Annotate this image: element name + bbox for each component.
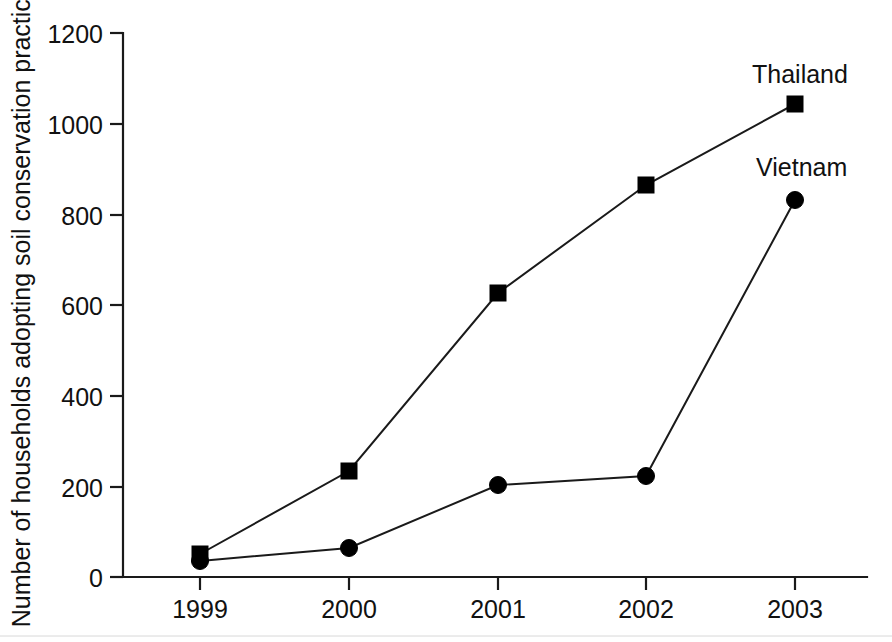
series-label-thailand: Thailand xyxy=(752,60,848,88)
y-tick-label-200: 200 xyxy=(61,474,103,502)
series-line-vietnam xyxy=(200,200,795,561)
series-markers-vietnam xyxy=(192,192,804,570)
y-axis-title: Number of households adopting soil conse… xyxy=(7,0,35,627)
data-point-vietnam-1999 xyxy=(192,553,209,570)
x-tick-label-2000: 2000 xyxy=(321,595,377,623)
data-point-vietnam-2002 xyxy=(638,468,655,485)
line-chart: Number of households adopting soil conse… xyxy=(0,0,892,642)
data-point-thailand-2000 xyxy=(341,463,357,479)
data-point-thailand-2001 xyxy=(490,285,506,301)
x-axis-tick-labels: 1999 2000 2001 2002 2003 xyxy=(172,595,823,623)
series-label-vietnam: Vietnam xyxy=(756,153,847,181)
y-tick-label-400: 400 xyxy=(61,383,103,411)
data-point-vietnam-2001 xyxy=(490,477,507,494)
x-tick-label-2001: 2001 xyxy=(470,595,526,623)
x-axis-ticks xyxy=(200,577,795,590)
data-point-vietnam-2003 xyxy=(787,192,804,209)
x-tick-label-1999: 1999 xyxy=(172,595,228,623)
y-tick-label-800: 800 xyxy=(61,202,103,230)
y-tick-label-600: 600 xyxy=(61,292,103,320)
data-point-thailand-2003 xyxy=(787,96,803,112)
data-point-vietnam-2000 xyxy=(341,540,358,557)
y-axis-ticks xyxy=(110,33,123,577)
y-tick-label-1000: 1000 xyxy=(47,111,103,139)
y-tick-label-0: 0 xyxy=(89,564,103,592)
data-point-thailand-2002 xyxy=(638,177,654,193)
x-tick-label-2003: 2003 xyxy=(767,595,823,623)
chart-page: Number of households adopting soil conse… xyxy=(0,0,892,642)
x-tick-label-2002: 2002 xyxy=(618,595,674,623)
y-tick-label-1200: 1200 xyxy=(47,20,103,48)
y-axis-tick-labels: 1200 1000 800 600 400 200 0 xyxy=(47,20,103,592)
